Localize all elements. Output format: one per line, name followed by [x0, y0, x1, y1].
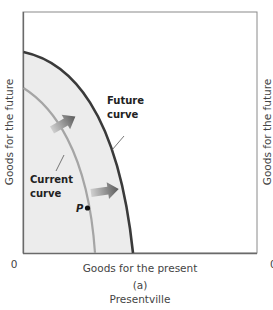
next-panel-y-axis-label: Goods for the future	[261, 79, 273, 185]
y-axis-label: Goods for the future	[3, 79, 15, 185]
panel-label: (a)	[133, 279, 148, 291]
diagram-title: Presentville	[110, 293, 171, 305]
x-axis-label: Goods for the present	[83, 262, 198, 274]
origin-label: 0	[11, 258, 18, 270]
future-curve-label-line1: Future	[107, 95, 144, 106]
point-p-label: P	[76, 203, 84, 214]
point-p-marker	[85, 205, 90, 210]
current-curve-label-line2: curve	[30, 188, 61, 199]
future-curve-label-line2: curve	[107, 109, 138, 120]
next-panel-origin-label: 0	[270, 258, 273, 270]
current-curve-label-line1: Current	[30, 174, 73, 185]
ppf-diagram: Future curve Current curve P Goods for t…	[0, 0, 273, 310]
